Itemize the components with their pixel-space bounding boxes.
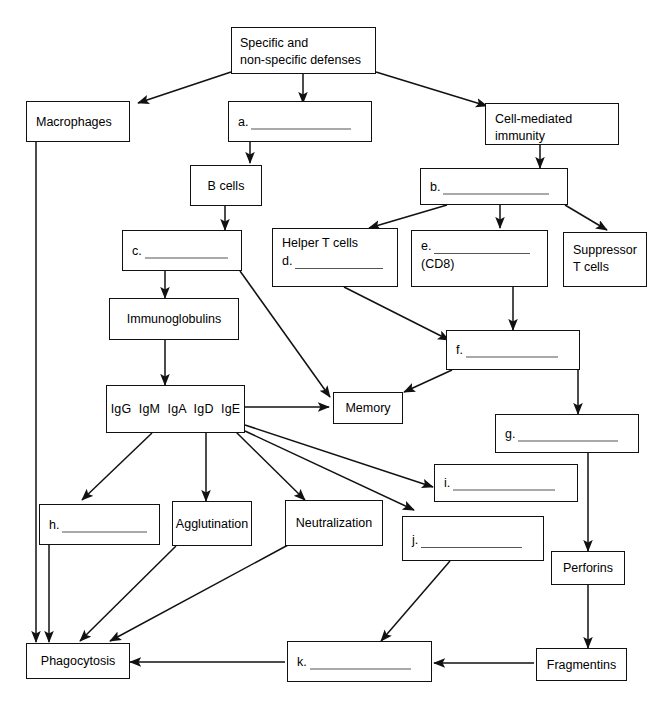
macrophages-label: Macrophages: [36, 113, 123, 130]
blank-e-key: e.: [421, 239, 431, 254]
cell-mediated-line1: Cell-mediated: [495, 111, 612, 128]
phagocytosis-label: Phagocytosis: [27, 653, 129, 670]
blank-j-key: j.: [412, 533, 418, 548]
edge-igclasses-neutralization: [236, 432, 305, 500]
blank-h-rule[interactable]: [62, 520, 147, 532]
node-b-cells[interactable]: B cells: [190, 165, 262, 206]
blank-a-rule[interactable]: [251, 117, 351, 129]
e-subtitle: (CD8): [421, 256, 541, 273]
node-memory[interactable]: Memory: [333, 392, 403, 424]
blank-g-rule[interactable]: [518, 429, 618, 441]
node-helper-t-cells[interactable]: Helper T cells d.: [272, 228, 398, 287]
node-blank-a[interactable]: a.: [228, 101, 372, 142]
node-blank-i[interactable]: i.: [434, 464, 578, 502]
blank-k-key: k.: [297, 654, 307, 669]
blank-i-rule[interactable]: [453, 479, 555, 491]
blank-h-key: h.: [49, 517, 59, 532]
edge-c-memory: [240, 271, 330, 397]
node-macrophages[interactable]: Macrophages: [26, 101, 130, 142]
agglutination-label: Agglutination: [173, 515, 251, 532]
suppressor-t-line2: T cells: [573, 259, 640, 276]
edge-neutralization-phagocytosis: [110, 545, 288, 641]
root-line2: non-specific defenses: [240, 52, 371, 69]
blank-b-rule[interactable]: [443, 182, 549, 194]
blank-k-rule[interactable]: [310, 657, 411, 669]
edge-helpert-f: [344, 287, 449, 340]
edge-b-helpert: [369, 205, 447, 228]
edge-igclasses-i: [245, 425, 433, 487]
fragmentins-label: Fragmentins: [537, 656, 626, 673]
edge-root-macrophages: [138, 72, 231, 103]
edge-igclasses-j: [245, 431, 414, 510]
node-blank-b[interactable]: b.: [420, 168, 568, 205]
root-line1: Specific and: [240, 35, 371, 52]
edge-b-suppressort: [565, 205, 607, 230]
blank-c-rule[interactable]: [145, 246, 228, 258]
edge-f-memory: [404, 370, 452, 392]
node-cell-mediated-immunity[interactable]: Cell-mediated immunity: [485, 103, 619, 145]
node-specific-nonspecific-defenses[interactable]: Specific and non-specific defenses: [231, 27, 376, 74]
node-phagocytosis[interactable]: Phagocytosis: [26, 643, 130, 679]
node-agglutination[interactable]: Agglutination: [172, 501, 252, 546]
node-immunoglobulin-classes[interactable]: IgG IgM IgA IgD IgE: [106, 385, 245, 433]
blank-e-rule[interactable]: [434, 242, 530, 254]
blank-f-rule[interactable]: [466, 346, 558, 358]
node-blank-e[interactable]: e. (CD8): [411, 230, 548, 287]
suppressor-t-line1: Suppressor: [573, 242, 640, 259]
blank-c-key: c.: [132, 243, 142, 258]
node-blank-c[interactable]: c.: [122, 230, 242, 271]
blank-i-key: i.: [444, 476, 450, 491]
node-fragmentins[interactable]: Fragmentins: [536, 648, 627, 681]
neutralization-label: Neutralization: [286, 515, 382, 532]
blank-d-key: d.: [282, 254, 292, 269]
node-immunoglobulins[interactable]: Immunoglobulins: [109, 298, 239, 340]
immunoglobulins-label: Immunoglobulins: [110, 311, 238, 328]
node-neutralization[interactable]: Neutralization: [285, 500, 383, 546]
node-blank-f[interactable]: f.: [446, 330, 580, 370]
edge-root-cellmediated: [376, 72, 487, 106]
helper-t-label: Helper T cells: [282, 235, 391, 252]
edge-igclasses-h: [82, 433, 152, 500]
blank-a-key: a.: [238, 114, 248, 129]
node-perforins[interactable]: Perforins: [551, 551, 625, 585]
node-blank-k[interactable]: k.: [287, 641, 432, 682]
node-blank-g[interactable]: g.: [495, 414, 639, 453]
edge-agglutination-phagocytosis: [80, 546, 176, 641]
ig-classes-label: IgG IgM IgA IgD IgE: [111, 402, 241, 416]
blank-j-rule[interactable]: [421, 536, 522, 548]
node-blank-j[interactable]: j.: [402, 516, 544, 561]
blank-b-key: b.: [430, 179, 440, 194]
blank-d-rule[interactable]: [295, 257, 383, 269]
perforins-label: Perforins: [552, 560, 624, 577]
edge-j-k: [381, 561, 450, 641]
b-cells-label: B cells: [191, 177, 261, 194]
node-blank-h[interactable]: h.: [39, 504, 160, 545]
blank-g-key: g.: [505, 426, 515, 441]
blank-f-key: f.: [456, 343, 463, 358]
concept-map-canvas: Specific and non-specific defenses Macro…: [0, 0, 666, 717]
cell-mediated-line2: immunity: [495, 128, 612, 145]
node-suppressor-t-cells[interactable]: Suppressor T cells: [563, 232, 647, 287]
memory-label: Memory: [334, 400, 402, 417]
